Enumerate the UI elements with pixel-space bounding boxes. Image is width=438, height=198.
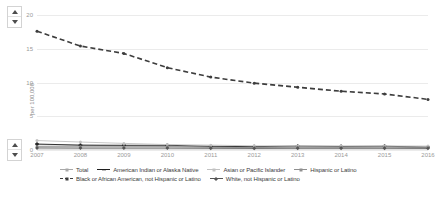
triangle-down-icon bbox=[12, 20, 18, 24]
y-axis-label: per 100,000 bbox=[29, 83, 35, 115]
legend-item[interactable]: Asian or Pacific Islander bbox=[207, 166, 285, 173]
legend-label: Asian or Pacific Islander bbox=[223, 167, 285, 173]
data-point-marker bbox=[122, 142, 125, 145]
plot-area: 05101520 2007200820092010201120122013201… bbox=[37, 15, 428, 150]
legend-marker-icon bbox=[210, 175, 223, 182]
scroll-up-button-bottom[interactable] bbox=[8, 140, 21, 150]
data-point-marker bbox=[383, 92, 386, 95]
data-point-marker bbox=[427, 98, 430, 101]
legend-label: White, not Hispanic or Latino bbox=[226, 176, 300, 182]
x-axis-tick-label: 2007 bbox=[30, 152, 43, 158]
y-axis-tick-label: 10 bbox=[26, 80, 33, 86]
y-axis-tick-label: 5 bbox=[30, 113, 33, 119]
legend-marker-icon bbox=[60, 166, 73, 173]
x-axis-tick-label: 2011 bbox=[204, 152, 217, 158]
legend-item[interactable]: American Indian or Alaska Native bbox=[97, 166, 198, 173]
x-axis-tick-label: 2008 bbox=[74, 152, 87, 158]
x-axis-tick-label: 2014 bbox=[334, 152, 347, 158]
x-axis-tick-label: 2009 bbox=[117, 152, 130, 158]
legend-item[interactable]: Black or African American, not Hispanic … bbox=[60, 175, 201, 182]
legend-marker-icon bbox=[60, 175, 73, 182]
data-point-marker bbox=[253, 82, 256, 85]
y-axis-tick-label: 20 bbox=[26, 12, 33, 18]
legend-item[interactable]: Total bbox=[60, 166, 88, 173]
series-4 bbox=[36, 30, 430, 101]
x-axis-tick-label: 2016 bbox=[421, 152, 434, 158]
legend-label: Total bbox=[76, 167, 88, 173]
scroll-down-button-bottom[interactable] bbox=[8, 150, 21, 160]
triangle-down-icon bbox=[12, 153, 18, 157]
legend-label: American Indian or Alaska Native bbox=[113, 167, 198, 173]
legend-label: Hispanic or Latino bbox=[310, 167, 356, 173]
scroll-up-down-control-bottom[interactable] bbox=[7, 139, 22, 161]
series-layer bbox=[37, 15, 428, 150]
legend-marker-icon bbox=[97, 166, 110, 173]
chart-viewer: per 100,000 05101520 2007200820092010201… bbox=[0, 0, 438, 198]
x-axis-tick-label: 2010 bbox=[161, 152, 174, 158]
data-point-marker bbox=[340, 90, 343, 93]
x-axis-tick-label: 2015 bbox=[378, 152, 391, 158]
x-axis-tick-label: 2012 bbox=[248, 152, 261, 158]
series-line bbox=[37, 31, 428, 99]
legend-item[interactable]: White, not Hispanic or Latino bbox=[210, 175, 300, 182]
x-axis-tick-label: 2013 bbox=[291, 152, 304, 158]
triangle-up-icon bbox=[12, 143, 18, 147]
legend-marker-icon bbox=[294, 166, 307, 173]
y-axis-tick-label: 15 bbox=[26, 46, 33, 52]
data-point-marker bbox=[36, 139, 39, 142]
data-point-marker bbox=[122, 52, 125, 55]
legend-label: Black or African American, not Hispanic … bbox=[76, 176, 201, 182]
data-point-marker bbox=[36, 30, 39, 33]
gridline bbox=[37, 150, 428, 151]
data-point-marker bbox=[296, 86, 299, 89]
data-point-marker bbox=[79, 141, 82, 144]
triangle-up-icon bbox=[12, 10, 18, 14]
legend-item[interactable]: Hispanic or Latino bbox=[294, 166, 356, 173]
scroll-up-button-top[interactable] bbox=[8, 7, 21, 17]
scroll-up-down-control-top[interactable] bbox=[7, 6, 22, 28]
chart-legend: TotalAmerican Indian or Alaska NativeAsi… bbox=[60, 166, 430, 182]
legend-marker-icon bbox=[207, 166, 220, 173]
data-point-marker bbox=[166, 66, 169, 69]
data-point-marker bbox=[209, 76, 212, 79]
data-point-marker bbox=[79, 45, 82, 48]
scroll-down-button-top[interactable] bbox=[8, 17, 21, 27]
